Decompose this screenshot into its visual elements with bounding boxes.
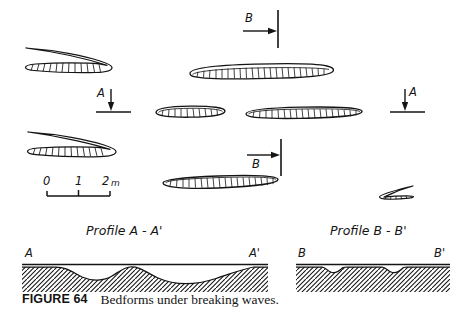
section-label-b-top: B: [245, 11, 253, 25]
section-label-a-left: A: [96, 86, 105, 100]
figure-caption-label: FIGURE 64: [22, 292, 88, 306]
bedform-mid-right: [246, 107, 362, 119]
bedform-lower-center: [163, 175, 278, 188]
figure-caption: FIGURE 64 Bedforms under breaking waves.: [0, 292, 465, 318]
section-label-a-right: A: [408, 85, 417, 99]
section-marker-a-left: A: [96, 86, 131, 112]
scale-unit-label: m: [111, 178, 120, 188]
section-label-b-bottom: B: [252, 157, 260, 171]
profile-a-left-label: A: [24, 246, 33, 260]
profile-b-substrate: [296, 267, 450, 292]
bedform-upper-center: [190, 64, 334, 79]
bedform-lower-right: [380, 186, 414, 199]
figure-caption-text: Bedforms under breaking waves.: [101, 292, 279, 308]
figure-drawing: B A A B 0 1: [0, 0, 465, 321]
scale-tick-label-2: 2: [102, 174, 109, 188]
section-marker-b-bottom: B: [247, 139, 281, 176]
profile-a-title: Profile A - A': [86, 223, 163, 238]
figure-container: B A A B 0 1: [0, 0, 465, 321]
profile-a-group: Profile A - A' A A': [22, 223, 268, 292]
bedform-mid-left: [156, 106, 225, 117]
profile-b-group: Profile B - B' B B': [296, 223, 450, 292]
bedform-lower-left: [28, 132, 117, 157]
profile-b-left-label: B: [298, 246, 306, 260]
profile-a-substrate: [22, 267, 268, 292]
profile-a-right-label: A': [248, 246, 260, 260]
scale-tick-label-0: 0: [43, 174, 50, 188]
bedform-upper-left: [26, 48, 113, 73]
section-marker-a-right: A: [390, 85, 425, 112]
profile-b-right-label: B': [434, 246, 445, 260]
scale-bar: 0 1 2 m: [43, 174, 120, 196]
scale-tick-label-1: 1: [75, 174, 82, 188]
section-marker-b-top: B: [243, 10, 278, 48]
profile-b-title: Profile B - B': [330, 223, 407, 238]
